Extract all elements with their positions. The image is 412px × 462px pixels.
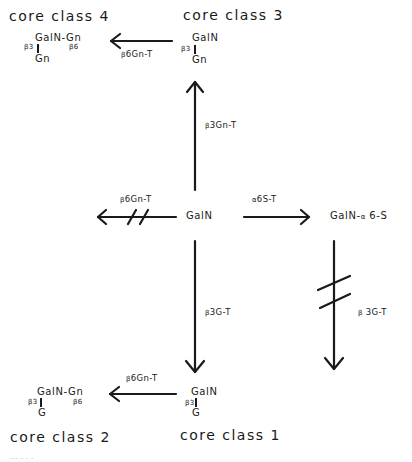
core4-link-right: β6 (69, 43, 78, 51)
cropped-caption: … . . . (10, 452, 33, 461)
core4-main-chain: GalN-Gn (35, 32, 81, 43)
edge-label-center-core3: β3Gn-T (205, 120, 237, 130)
core3-branch: Gn (192, 54, 207, 65)
core2-link-right: β6 (73, 398, 82, 406)
core1-link: β3 (185, 399, 194, 407)
core1-bond (195, 398, 197, 407)
core1-title: core class 1 (180, 427, 281, 443)
core1-branch: G (192, 407, 200, 418)
center-galn: GalN (186, 210, 213, 221)
core2-bond (40, 398, 42, 407)
core3-main: GalN (192, 32, 219, 43)
core4-bond (37, 44, 39, 53)
core3-bond (194, 45, 196, 54)
core2-branch: G (38, 407, 46, 418)
edge-label-core1-core2: β6Gn-T (126, 373, 158, 383)
core4-title: core class 4 (9, 8, 110, 24)
core2-title: core class 2 (10, 429, 111, 445)
core2-link-left: β3 (28, 398, 37, 406)
core3-link: β3 (181, 45, 190, 53)
core4-link-left: β3 (24, 43, 33, 51)
edge-label-center-sulfated: α6S-T (252, 194, 277, 204)
core1-main: GalN (191, 386, 218, 397)
edge-label-blocked-down: β 3G-T (358, 307, 387, 317)
core2-main-chain: GalN-Gn (37, 386, 83, 397)
edge-label-blocked-left: β6Gn-T (120, 194, 152, 204)
sulfated-galn: GalN-α 6-S (330, 210, 387, 221)
core4-branch: Gn (35, 53, 50, 64)
edge-label-core3-core4: β6Gn-T (121, 49, 153, 59)
edge-label-center-core1: β3G-T (205, 307, 231, 317)
core3-title: core class 3 (183, 7, 284, 23)
